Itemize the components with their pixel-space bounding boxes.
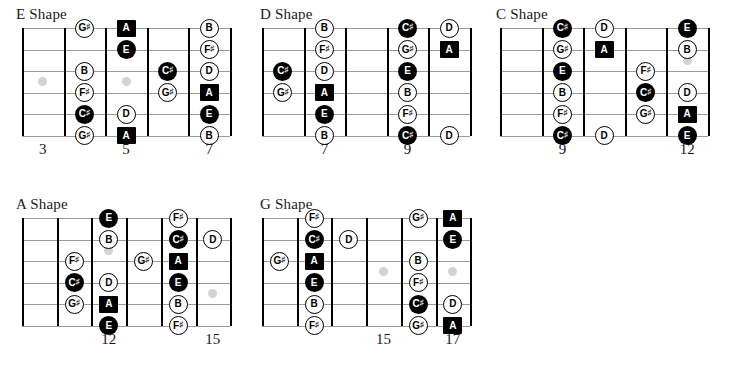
note-marker[interactable]: G♯ [409, 209, 428, 228]
note-marker[interactable]: D [440, 19, 459, 38]
note-name: D [449, 299, 456, 309]
note-marker[interactable]: B [398, 83, 417, 102]
note-marker[interactable]: F♯ [315, 40, 334, 59]
note-marker[interactable]: B [200, 126, 219, 145]
fret-line [401, 218, 403, 326]
note-marker[interactable]: C♯ [553, 126, 572, 145]
note-name: G [79, 23, 87, 33]
note-marker[interactable]: B [169, 295, 188, 314]
note-name: D [600, 23, 607, 33]
note-marker[interactable]: F♯ [75, 83, 94, 102]
note-marker[interactable]: F♯ [398, 105, 417, 124]
note-marker[interactable]: B [99, 230, 118, 249]
note-marker[interactable]: D [440, 126, 459, 145]
note-marker[interactable]: F♯ [200, 40, 219, 59]
note-marker[interactable]: D [203, 230, 222, 249]
note-marker[interactable]: A [440, 41, 459, 58]
note-marker[interactable]: C♯ [398, 19, 417, 38]
note-marker[interactable]: G♯ [636, 105, 655, 124]
note-name: E [404, 66, 411, 76]
note-marker[interactable]: E [678, 19, 697, 38]
note-marker[interactable]: E [200, 105, 219, 124]
note-marker[interactable]: G♯ [398, 40, 417, 59]
note-marker[interactable]: B [678, 40, 697, 59]
note-marker[interactable]: C♯ [273, 62, 292, 81]
note-marker[interactable]: C♯ [305, 230, 324, 249]
note-marker[interactable]: F♯ [409, 273, 428, 292]
note-marker[interactable]: D [117, 105, 136, 124]
note-marker[interactable]: C♯ [553, 19, 572, 38]
note-marker[interactable]: D [315, 62, 334, 81]
note-accidental: ♯ [179, 213, 183, 221]
fret-line [304, 28, 306, 136]
note-accidental: ♯ [281, 256, 285, 264]
note-marker[interactable]: B [315, 19, 334, 38]
note-marker[interactable]: E [315, 105, 334, 124]
note-name: G [162, 88, 170, 98]
note-marker[interactable]: A [678, 106, 697, 123]
note-marker[interactable]: G♯ [65, 295, 84, 314]
note-marker[interactable]: C♯ [65, 273, 84, 292]
note-marker[interactable]: B [409, 252, 428, 271]
note-marker[interactable]: F♯ [169, 316, 188, 335]
fret-line [666, 28, 668, 136]
note-marker[interactable]: A [200, 84, 219, 101]
note-marker[interactable]: B [305, 295, 324, 314]
note-marker[interactable]: D [595, 19, 614, 38]
note-marker[interactable]: F♯ [636, 62, 655, 81]
note-marker[interactable]: C♯ [75, 105, 94, 124]
note-marker[interactable]: C♯ [398, 126, 417, 145]
note-marker[interactable]: F♯ [305, 209, 324, 228]
note-marker[interactable]: E [117, 40, 136, 59]
note-marker[interactable]: E [169, 273, 188, 292]
note-marker[interactable]: E [305, 273, 324, 292]
note-marker[interactable]: A [315, 84, 334, 101]
note-marker[interactable]: D [339, 230, 358, 249]
note-marker[interactable]: F♯ [305, 316, 324, 335]
note-name: D [684, 88, 691, 98]
note-marker[interactable]: G♯ [75, 126, 94, 145]
note-marker[interactable]: E [443, 230, 462, 249]
note-marker[interactable]: B [553, 83, 572, 102]
note-marker[interactable]: C♯ [409, 295, 428, 314]
note-marker[interactable]: B [315, 126, 334, 145]
note-marker[interactable]: G♯ [409, 316, 428, 335]
note-marker[interactable]: G♯ [158, 83, 177, 102]
note-accidental: ♯ [563, 109, 567, 117]
note-name: D [321, 66, 328, 76]
note-marker[interactable]: A [117, 20, 136, 37]
note-marker[interactable]: A [443, 210, 462, 227]
note-marker[interactable]: C♯ [158, 62, 177, 81]
note-marker[interactable]: F♯ [65, 252, 84, 271]
note-marker[interactable]: E [553, 62, 572, 81]
note-marker[interactable]: G♯ [75, 19, 94, 38]
note-marker[interactable]: G♯ [270, 252, 289, 271]
note-marker[interactable]: E [99, 209, 118, 228]
note-marker[interactable]: E [398, 62, 417, 81]
note-marker[interactable]: G♯ [553, 40, 572, 59]
note-marker[interactable]: D [443, 295, 462, 314]
note-marker[interactable]: F♯ [169, 209, 188, 228]
note-marker[interactable]: A [117, 127, 136, 144]
note-marker[interactable]: A [99, 296, 118, 313]
note-marker[interactable]: D [678, 83, 697, 102]
note-marker[interactable]: D [200, 62, 219, 81]
note-marker[interactable]: D [595, 126, 614, 145]
fret-line [428, 28, 430, 136]
string-line [500, 114, 708, 115]
note-marker[interactable]: E [678, 126, 697, 145]
note-marker[interactable]: A [595, 41, 614, 58]
note-marker[interactable]: A [169, 253, 188, 270]
note-marker[interactable]: G♯ [134, 252, 153, 271]
fret-line [161, 218, 163, 326]
note-marker[interactable]: A [305, 253, 324, 270]
note-marker[interactable]: A [443, 317, 462, 334]
note-marker[interactable]: D [99, 273, 118, 292]
note-marker[interactable]: C♯ [636, 83, 655, 102]
note-marker[interactable]: C♯ [169, 230, 188, 249]
note-name: E [321, 109, 328, 119]
note-marker[interactable]: B [75, 62, 94, 81]
note-marker[interactable]: G♯ [273, 83, 292, 102]
note-marker[interactable]: B [200, 19, 219, 38]
note-marker[interactable]: F♯ [553, 105, 572, 124]
